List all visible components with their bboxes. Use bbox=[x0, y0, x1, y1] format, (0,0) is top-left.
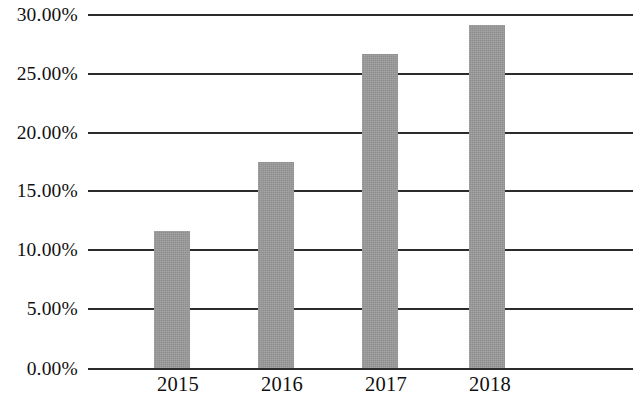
bar-2015 bbox=[154, 231, 190, 368]
x-axis-label-2017: 2017 bbox=[326, 374, 446, 395]
bar-2016 bbox=[258, 162, 294, 369]
x-axis-label-2015: 2015 bbox=[118, 374, 238, 395]
x-axis-label-2018: 2018 bbox=[430, 374, 550, 395]
bar-chart: 30.00% 25.00% 20.00% 15.00% 10.00% 5.00%… bbox=[0, 0, 633, 399]
bar-2018 bbox=[469, 25, 505, 368]
bar-2017 bbox=[362, 54, 398, 368]
x-axis-label-2016: 2016 bbox=[222, 374, 342, 395]
plot-area bbox=[0, 0, 633, 399]
